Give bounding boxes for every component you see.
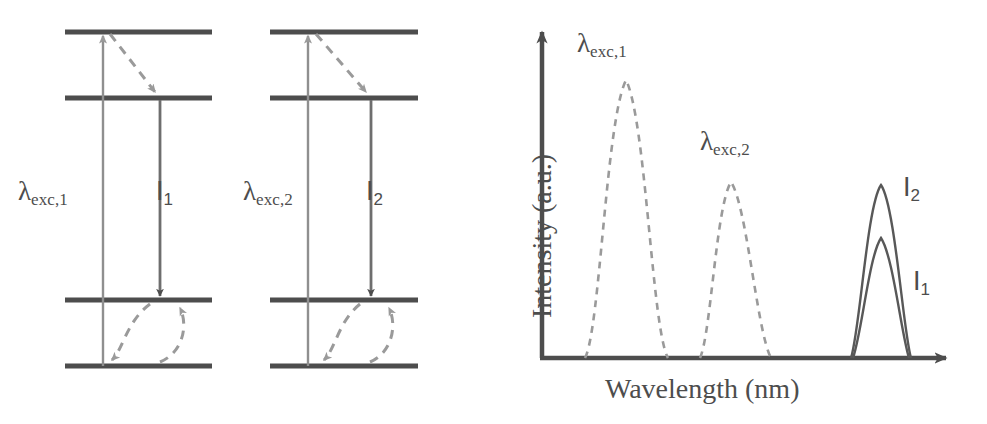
intensity-subscript: 1 xyxy=(164,190,173,209)
scheme-2-emission-label: I2 xyxy=(366,178,383,208)
lambda-glyph: λ xyxy=(243,176,256,206)
scheme-1-excitation-label: λexc,1 xyxy=(18,178,68,208)
chart-annotation-lambda-exc-2: λexc,2 xyxy=(700,128,750,158)
relaxation-loop-down-1 xyxy=(112,304,150,360)
spectrum-chart xyxy=(540,32,946,358)
intensity-subscript: 2 xyxy=(374,190,383,209)
excitation-peak-2 xyxy=(700,182,771,358)
relaxation-loop-down-2 xyxy=(324,304,360,360)
excitation-peak-1 xyxy=(585,80,668,358)
y-axis-title: Intensity (a.u.) xyxy=(528,154,556,318)
nonradiative-relaxation-arrow-1 xyxy=(110,34,155,92)
lambda-subscript: exc,1 xyxy=(590,42,627,61)
nonradiative-relaxation-arrow-2 xyxy=(316,34,366,92)
intensity-glyph: I xyxy=(913,266,921,296)
chart-annotation-emission-1: I1 xyxy=(913,268,930,298)
intensity-glyph: I xyxy=(366,176,374,206)
intensity-subscript: 1 xyxy=(921,280,930,299)
energy-scheme-1 xyxy=(65,32,212,366)
intensity-glyph: I xyxy=(903,172,911,202)
scheme-1-emission-label: I1 xyxy=(156,178,173,208)
lambda-glyph: λ xyxy=(700,126,713,156)
scheme-2-excitation-label: λexc,2 xyxy=(243,178,293,208)
lambda-glyph: λ xyxy=(18,176,31,206)
intensity-glyph: I xyxy=(156,176,164,206)
chart-annotation-emission-2: I2 xyxy=(903,174,920,204)
relaxation-loop-up-1 xyxy=(160,308,184,362)
lambda-subscript: exc,2 xyxy=(256,190,293,209)
x-axis-title: Wavelength (nm) xyxy=(605,375,799,403)
lambda-subscript: exc,2 xyxy=(713,140,750,159)
lambda-subscript: exc,1 xyxy=(31,190,68,209)
figure-canvas xyxy=(0,0,987,424)
figure-root: λexc,1 I1 λexc,2 I2 λexc,1 λexc,2 I2 I1 … xyxy=(0,0,987,424)
chart-annotation-lambda-exc-1: λexc,1 xyxy=(577,30,627,60)
lambda-glyph: λ xyxy=(577,28,590,58)
relaxation-loop-up-2 xyxy=(370,308,393,362)
intensity-subscript: 2 xyxy=(911,186,920,205)
